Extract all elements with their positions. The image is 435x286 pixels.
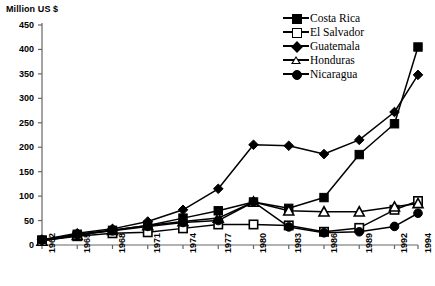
legend-marker-glyph: [291, 41, 302, 52]
open-triangle-marker: [283, 53, 309, 67]
legend-label: Guatemala: [309, 39, 360, 53]
x-tick-label-1994: 1994: [423, 233, 433, 253]
x-tick-label-1986: 1986: [329, 233, 339, 253]
open-square-marker: [283, 25, 309, 39]
y-tick-label-300: 300: [6, 93, 34, 103]
series-guatemala: [37, 70, 423, 244]
legend-marker-glyph: [292, 28, 302, 38]
y-tick-label-200: 200: [6, 142, 34, 152]
legend-label: Honduras: [309, 53, 355, 67]
y-tick-label-400: 400: [6, 44, 34, 54]
y-tick-label-100: 100: [6, 191, 34, 201]
x-tick-label-1968: 1968: [117, 233, 127, 253]
legend-item-costa-rica[interactable]: Costa Rica: [283, 11, 364, 25]
y-tick-label-450: 450: [6, 20, 34, 30]
y-tick-label-150: 150: [6, 167, 34, 177]
x-tick-label-1992: 1992: [399, 233, 409, 253]
legend-marker-glyph: [292, 70, 302, 80]
legend-item-honduras[interactable]: Honduras: [283, 53, 364, 67]
x-tick-label-1962: 1962: [47, 233, 57, 253]
y-tick-label-0: 0: [6, 240, 34, 250]
x-tick-label-1980: 1980: [258, 233, 268, 253]
x-tick-label-1974: 1974: [188, 233, 198, 253]
x-tick-label-1971: 1971: [152, 233, 162, 253]
legend-marker-glyph: [291, 56, 301, 64]
legend-item-guatemala[interactable]: Guatemala: [283, 39, 364, 53]
x-tick-label-1977: 1977: [223, 233, 233, 253]
legend-label: Nicaragua: [309, 67, 357, 81]
filled-diamond-marker: [283, 39, 309, 53]
legend-label: Costa Rica: [309, 11, 360, 25]
y-tick-label-350: 350: [6, 69, 34, 79]
chart-legend: Costa RicaEl SalvadorGuatemalaHondurasNi…: [283, 11, 364, 81]
x-tick-label-1983: 1983: [293, 233, 303, 253]
legend-label: El Salvador: [309, 25, 364, 39]
chart-container: Million US $ Costa RicaEl SalvadorGuatem…: [0, 0, 435, 286]
x-tick-label-1989: 1989: [364, 233, 374, 253]
y-tick-label-50: 50: [6, 216, 34, 226]
filled-circle-marker: [283, 67, 309, 81]
filled-square-marker: [283, 11, 309, 25]
legend-item-nicaragua[interactable]: Nicaragua: [283, 67, 364, 81]
legend-marker-glyph: [292, 14, 302, 24]
x-tick-label-1965: 1965: [82, 233, 92, 253]
y-tick-label-250: 250: [6, 118, 34, 128]
legend-item-el-salvador[interactable]: El Salvador: [283, 25, 364, 39]
